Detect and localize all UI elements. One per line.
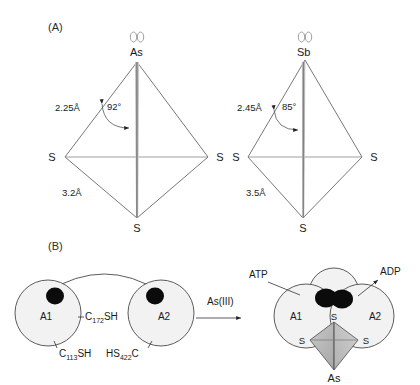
- figure-root: (A) As S S S 2.25Å 3.2Å 92° S: [0, 0, 420, 385]
- thiolate-left-label: S: [299, 335, 305, 346]
- nucleotide-binding-site-a2: [146, 288, 164, 305]
- bond-angle-arc-sb: [274, 110, 298, 130]
- cys172-suffix: SH: [104, 311, 118, 322]
- ligand-label-left-s: S: [48, 151, 55, 163]
- adp-label: ADP: [380, 266, 401, 277]
- reaction-arrow-label: As(III): [207, 296, 234, 307]
- cys113-suffix: SH: [77, 348, 91, 359]
- structure-antimony: Sb S S S 2.45Å 3.5Å 85°: [232, 32, 377, 234]
- cys422-prefix: HS: [106, 348, 120, 359]
- panel-b-label: (B): [48, 240, 63, 252]
- subunit-a2-label-bound: A2: [369, 311, 382, 322]
- bond-length-lower-label: 3.2Å: [62, 187, 82, 198]
- bond-length-lower-label-sb: 3.5Å: [246, 187, 266, 198]
- ligand-label-bottom-s-sb: S: [299, 222, 306, 234]
- metalloid-as-label: As: [328, 372, 341, 384]
- nucleotide-binding-site-right: [331, 290, 353, 309]
- panel-a-label: (A): [48, 21, 63, 33]
- lone-pair-electrons: [130, 32, 143, 42]
- apo-dimer: A1 A2 C172SH C113SH HS422C: [15, 274, 194, 361]
- structure-arsenic: As S S S 2.25Å 3.2Å 92°: [48, 32, 223, 234]
- bond-length-upper-label-sb: 2.45Å: [237, 102, 262, 113]
- subunit-a1-label: A1: [40, 311, 53, 322]
- cys113-subscript: 113: [66, 354, 77, 361]
- cys422-suffix: C: [132, 348, 139, 359]
- ligand-label-right-s-sb: S: [370, 151, 377, 163]
- cys113-prefix: C: [59, 348, 66, 359]
- subunit-a1-label-bound: A1: [290, 311, 303, 322]
- ligand-label-bottom-s: S: [133, 222, 140, 234]
- subunit-a2-label: A2: [158, 311, 171, 322]
- cysteine-172-label: C172SH: [85, 311, 118, 324]
- bond-length-upper-label: 2.25Å: [55, 102, 80, 113]
- center-atom-label-as: As: [130, 46, 143, 58]
- as-bound-dimer: A1 A2 S S S As ATP ADP: [249, 266, 401, 384]
- ligand-label-left-s-sb: S: [232, 151, 239, 163]
- cysteine-422-label: HS422C: [106, 348, 139, 361]
- lone-pair-electrons-sb: [298, 32, 311, 42]
- cysteine-113-label: C113SH: [59, 348, 91, 361]
- atp-label: ATP: [249, 269, 268, 280]
- cys422-subscript: 422: [120, 354, 132, 361]
- thiolate-top-label: S: [331, 311, 337, 322]
- bond-angle-label-sb: 85°: [282, 101, 297, 112]
- thiolate-right-label: S: [363, 335, 369, 346]
- reaction-arrow-group: As(III): [196, 296, 241, 318]
- cys172-subscript: 172: [92, 317, 104, 324]
- nucleotide-binding-site-a1: [46, 288, 64, 305]
- bond-angle-label: 92°: [107, 101, 122, 112]
- ligand-label-right-s: S: [216, 151, 223, 163]
- cys172-prefix: C: [85, 311, 92, 322]
- center-atom-label-sb: Sb: [297, 46, 310, 58]
